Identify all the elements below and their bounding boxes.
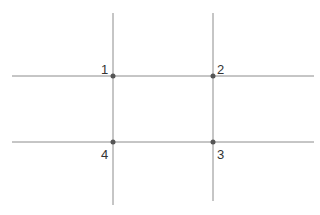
point-label-2: 2 [217, 63, 224, 76]
point-label-3: 3 [217, 148, 224, 161]
intersection-point-2 [211, 74, 216, 79]
point-label-4: 4 [101, 148, 108, 161]
intersection-point-4 [111, 140, 116, 145]
grid-diagram [0, 0, 320, 215]
intersection-point-1 [111, 74, 116, 79]
point-label-1: 1 [101, 63, 108, 76]
intersection-point-3 [211, 140, 216, 145]
